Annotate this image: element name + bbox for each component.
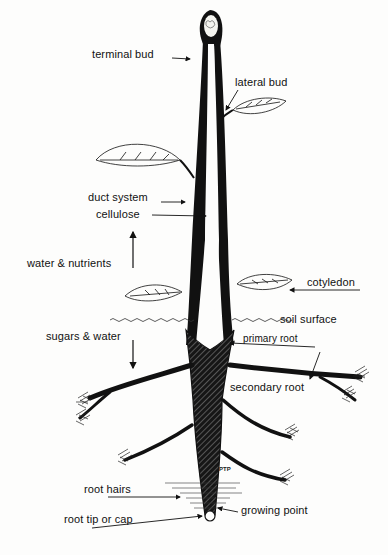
label-soil-surface: soil surface: [280, 313, 337, 325]
seedling-diagram: terminal bud lateral bud duct system cel…: [0, 0, 388, 555]
label-root-hairs: root hairs: [84, 483, 131, 495]
label-growing-point: growing point: [241, 504, 308, 516]
label-secondary-root: secondary root: [230, 381, 304, 393]
label-cellulose: cellulose: [96, 208, 140, 220]
label-water-nutrients: water & nutrients: [27, 257, 111, 269]
cotyledon-left: [125, 285, 182, 301]
label-duct-system: duct system: [88, 191, 148, 203]
label-cotyledon: cotyledon: [307, 276, 355, 288]
upper-right-leaf: [233, 98, 286, 114]
label-primary-root: primary root: [243, 333, 298, 345]
soil-surface: [110, 319, 292, 322]
label-terminal-bud: terminal bud: [92, 48, 154, 60]
artist-signature: PTP: [219, 466, 231, 472]
label-sugars-water: sugars & water: [46, 330, 121, 342]
label-root-tip: root tip or cap: [64, 513, 133, 525]
label-lateral-bud: lateral bud: [235, 76, 287, 88]
stem: [186, 40, 234, 345]
